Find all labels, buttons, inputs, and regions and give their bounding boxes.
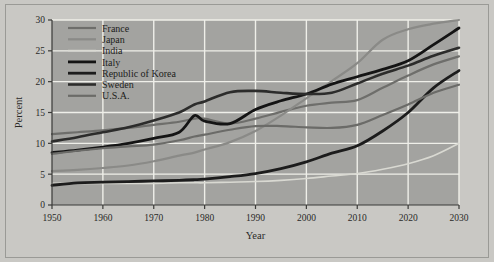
x-tick-label: 1980: [195, 213, 214, 223]
legend-label-japan: Japan: [102, 34, 125, 45]
x-tick-label: 1970: [144, 213, 163, 223]
x-tick-label: 2020: [399, 213, 418, 223]
x-tick-label: 1960: [93, 213, 112, 223]
y-axis-title: Percent: [13, 97, 24, 129]
legend-label-france: France: [102, 23, 130, 34]
y-tick-label: 10: [36, 139, 46, 149]
y-tick-label: 20: [36, 77, 46, 87]
x-tick-label: 2010: [348, 213, 367, 223]
x-tick-label: 1950: [43, 213, 62, 223]
legend-label-u-s-a: U.S.A.: [102, 90, 130, 101]
legend-label-republic-of-korea: Republic of Korea: [102, 68, 176, 79]
y-tick-label: 0: [40, 200, 45, 210]
x-tick-label: 2000: [297, 213, 316, 223]
line-chart-svg: 0510152025301950196019701980199020002010…: [0, 0, 494, 262]
legend-label-india: India: [102, 45, 123, 56]
chart-plot-container: 0510152025301950196019701980199020002010…: [0, 0, 494, 262]
x-axis-title: Year: [246, 230, 266, 241]
y-tick-label: 5: [40, 170, 45, 180]
x-tick-label: 1990: [246, 213, 265, 223]
x-tick-label: 2030: [450, 213, 469, 223]
legend-label-italy: Italy: [102, 57, 120, 68]
y-tick-label: 30: [36, 15, 46, 25]
legend-label-sweden: Sweden: [102, 79, 134, 90]
y-tick-label: 15: [36, 108, 46, 118]
figure-canvas: 0510152025301950196019701980199020002010…: [0, 0, 494, 262]
y-tick-label: 25: [36, 46, 46, 56]
